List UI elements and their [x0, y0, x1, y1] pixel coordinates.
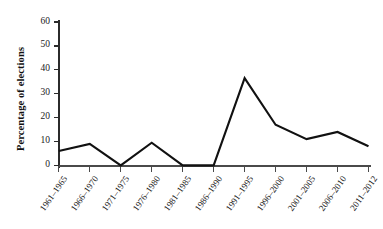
y-tick-label-text: 10	[10, 136, 50, 146]
y-tick-mark	[54, 69, 59, 70]
x-tick-mark	[58, 167, 59, 172]
y-tick-label-text: 30	[10, 88, 50, 98]
x-tick-mark	[337, 167, 338, 172]
x-tick-mark	[275, 167, 276, 172]
y-tick-label-text: 20	[10, 112, 50, 122]
y-tick-label: 10	[0, 136, 50, 146]
x-tick-mark	[120, 167, 121, 172]
y-tick-label: 20	[0, 112, 50, 122]
y-tick-label-text: 40	[10, 64, 50, 74]
x-tick-mark	[306, 167, 307, 172]
x-tick-mark	[368, 167, 369, 172]
line-chart: Percentage of elections 0102030405060 19…	[0, 0, 383, 229]
y-tick-mark	[54, 117, 59, 118]
y-tick-label-text: 50	[10, 40, 50, 50]
x-axis-line	[58, 165, 371, 167]
y-tick-label: 40	[0, 64, 50, 74]
y-tick-label-text: 0	[10, 160, 50, 170]
y-tick-label: 60	[0, 17, 50, 27]
y-tick-label: 0	[0, 160, 50, 170]
y-tick-label-text: 60	[10, 17, 50, 27]
y-tick-label: 30	[0, 88, 50, 98]
y-tick-mark	[54, 141, 59, 142]
x-tick-mark	[213, 167, 214, 172]
x-tick-mark	[182, 167, 183, 172]
y-tick-mark	[54, 21, 59, 22]
y-tick-mark	[54, 45, 59, 46]
y-tick-mark	[54, 93, 59, 94]
x-tick-mark	[244, 167, 245, 172]
x-tick-mark	[89, 167, 90, 172]
series-line-elections	[59, 78, 369, 165]
x-tick-mark	[151, 167, 152, 172]
y-tick-label: 50	[0, 40, 50, 50]
